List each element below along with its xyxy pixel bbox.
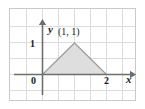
x-tick-label-2: 2 xyxy=(104,76,109,86)
coordinate-plot xyxy=(0,0,145,109)
math-figure: y x 1 0 2 (1, 1) xyxy=(0,0,145,109)
x-axis-label: x xyxy=(126,74,132,85)
apex-point-label: (1, 1) xyxy=(58,27,80,37)
y-axis-label: y xyxy=(48,24,53,35)
origin-label-0: 0 xyxy=(31,76,36,86)
y-tick-label-1: 1 xyxy=(30,39,35,49)
